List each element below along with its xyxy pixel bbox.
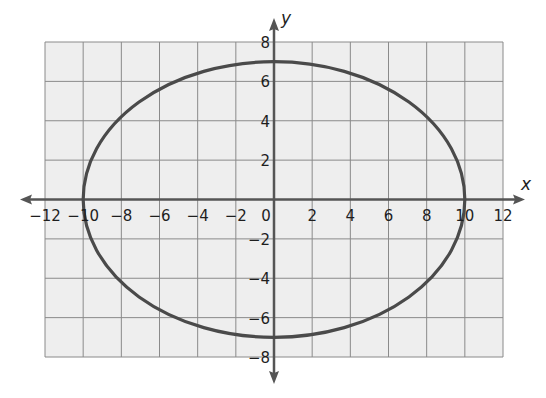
y-tick-label: −2 <box>248 231 270 249</box>
x-axis-label: x <box>520 174 532 194</box>
y-tick-label: 8 <box>260 34 270 52</box>
y-tick-label: 2 <box>260 152 270 170</box>
y-axis-label: y <box>280 8 292 28</box>
x-tick-label: −2 <box>225 207 247 225</box>
y-tick-label: −6 <box>248 310 270 328</box>
x-tick-label: 6 <box>384 207 394 225</box>
x-tick-label: −6 <box>148 207 170 225</box>
y-tick-label: 6 <box>260 73 270 91</box>
x-tick-label: −10 <box>67 207 99 225</box>
x-tick-label: −4 <box>187 207 209 225</box>
y-tick-label: 4 <box>260 113 270 131</box>
x-tick-label: −12 <box>29 207 61 225</box>
x-tick-label: −8 <box>110 207 132 225</box>
x-tick-label: 8 <box>422 207 432 225</box>
x-tick-label: 12 <box>493 207 512 225</box>
x-tick-label: 4 <box>346 207 356 225</box>
y-tick-label: −8 <box>248 349 270 367</box>
y-tick-label: −4 <box>248 270 270 288</box>
x-tick-label: 0 <box>261 207 271 225</box>
x-tick-label: 10 <box>455 207 474 225</box>
ellipse-chart: −12−10−8−6−4−2024681012 −8−6−4−22468 x y <box>0 0 546 398</box>
x-tick-label: 2 <box>307 207 317 225</box>
